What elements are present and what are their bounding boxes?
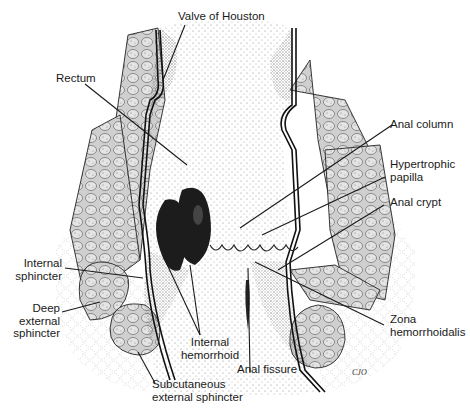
label-anal-crypt: Anal crypt [390,196,441,209]
label-zona-hemorrhoidalis: Zona hemorrhoidalis [390,313,465,338]
label-valve-of-houston: Valve of Houston [178,10,265,23]
anorectal-anatomy-figure: CJO Valve of Houston Rectum Anal column … [0,0,470,411]
label-subcutaneous-external-sphincter: Subcutaneous external sphincter [152,378,243,403]
label-hypertrophic-papilla: Hypertrophic papilla [390,158,455,183]
label-rectum: Rectum [56,72,96,85]
label-deep-external-sphincter: Deep external sphincter [6,302,60,340]
label-internal-hemorrhoid: Internal hemorrhoid [172,336,248,361]
signature: CJO [352,368,367,377]
label-anal-column: Anal column [390,118,453,131]
label-internal-sphincter: Internal sphincter [10,257,62,282]
label-anal-fissure: Anal fissure [237,363,297,376]
